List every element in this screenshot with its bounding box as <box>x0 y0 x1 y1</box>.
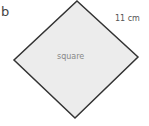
shape-name-label: square <box>57 52 84 61</box>
side-length-label: 11 cm <box>115 14 140 23</box>
